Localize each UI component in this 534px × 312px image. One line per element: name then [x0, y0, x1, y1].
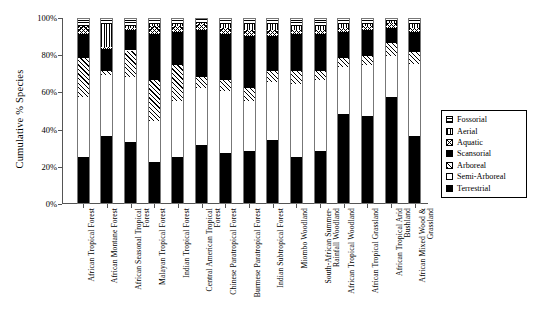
bar-segment-semi-arboreal — [244, 101, 255, 151]
legend-item-terrestrial[interactable]: Terrestrial — [446, 182, 523, 193]
legend-item-scansorial[interactable]: Scansorial — [446, 148, 523, 159]
x-tick-label: African Mixed Wood & Grassland — [419, 112, 432, 208]
x-tick-label-text: South-African Summer-Rainfall Woodland — [324, 208, 341, 304]
bar-segment-aerial — [125, 26, 136, 28]
y-axis-title-text: Cumulative % Species — [14, 44, 25, 194]
bar-segment-fossorial — [386, 18, 397, 21]
legend-label: Terrestrial — [457, 184, 491, 193]
bar-segment-terrestrial — [315, 151, 326, 203]
bar-segment-aquatic — [78, 26, 89, 33]
bar-segment-aquatic — [220, 28, 231, 34]
bar-segment-aquatic — [315, 30, 326, 34]
y-tick-label: 60% — [31, 88, 57, 96]
bar-segment-arboreal — [291, 71, 302, 84]
legend-label: Scansorial — [457, 149, 491, 158]
bar-segment-aerial — [409, 24, 420, 28]
bar-segment-arboreal — [409, 52, 420, 63]
legend-item-semi-arboreal[interactable]: Semi-Arboreal — [446, 171, 523, 182]
bar-segment-aquatic — [409, 28, 420, 32]
x-tick-label-text: African Tropical Woodland — [348, 208, 356, 304]
bar-segment-scansorial — [386, 28, 397, 43]
legend-item-aquatic[interactable]: Aquatic — [446, 137, 523, 148]
y-tick-label: 80% — [31, 51, 57, 59]
bar-segment-aerial — [291, 26, 302, 30]
x-tick-label: Indian Subtropical Forest — [277, 112, 290, 208]
legend-label: Fossorial — [457, 115, 487, 124]
y-tick-label: 100% — [31, 14, 57, 22]
x-tick-label: South-African Summer-Rainfall Woodland — [325, 112, 338, 208]
x-tick-label: Central American Tropical Forest — [206, 112, 219, 208]
bar-segment-aquatic — [149, 26, 160, 33]
bar-segment-scansorial — [338, 32, 349, 58]
bar-segment-semi-arboreal — [362, 65, 373, 115]
x-tick-label-text: Chinese Paratropical Forest — [229, 208, 237, 304]
bar-segment-semi-arboreal — [338, 67, 349, 114]
bar-segment-scansorial — [101, 49, 112, 71]
bar-segment-arboreal — [78, 58, 89, 97]
bar-segment-aerial — [101, 24, 112, 46]
bar-segment-arboreal — [125, 51, 136, 77]
bar-segment-scansorial — [196, 30, 207, 77]
bar-segment-arboreal — [244, 88, 255, 101]
x-tick-label-text: African Tropical Arid Bushland — [395, 208, 412, 304]
x-tick-label-text: African Tropical Forest — [87, 208, 95, 304]
bar-segment-aerial — [244, 24, 255, 30]
bar-segment-aerial — [149, 24, 160, 26]
bar-segment-terrestrial — [386, 97, 397, 203]
legend-swatch-icon — [446, 128, 453, 135]
legend-item-aerial[interactable]: Aerial — [446, 125, 523, 136]
bar-segment-fossorial — [196, 18, 207, 23]
bar-segment-scansorial — [149, 34, 160, 81]
y-axis-title: Cumulative % Species — [14, 0, 28, 44]
bar-segment-fossorial — [267, 18, 278, 24]
legend-item-arboreal[interactable]: Arboreal — [446, 160, 523, 171]
bar-segment-aerial — [362, 24, 373, 26]
bar-segment-aerial — [386, 21, 397, 23]
bar-segment-arboreal — [338, 58, 349, 67]
x-tick-label: Miombo Woodland — [301, 112, 314, 208]
bar-segment-arboreal — [267, 71, 278, 82]
x-tick-label: African Tropical Arid Bushland — [396, 112, 409, 208]
bar-segment-fossorial — [101, 18, 112, 24]
bar-segment-aquatic — [362, 26, 373, 30]
x-tick-label-text: Malayan Tropical Forest — [158, 208, 166, 304]
legend-swatch-icon — [446, 173, 453, 180]
bar-segment-aquatic — [196, 24, 207, 30]
x-tick-label: African Montane Forest — [111, 112, 124, 208]
bar-segment-scansorial — [78, 34, 89, 58]
x-tick-label: Chinese Paratropical Forest — [230, 112, 243, 208]
legend-swatch-icon — [446, 139, 453, 146]
bar-segment-fossorial — [149, 18, 160, 24]
legend-item-fossorial[interactable]: Fossorial — [446, 114, 523, 125]
x-tick-label: African Seasonal Tropical Forest — [135, 112, 148, 208]
x-tick-label: Burmese Paratropical Forest — [254, 112, 267, 208]
y-tick-mark — [58, 167, 62, 168]
bar-segment-scansorial — [220, 34, 231, 81]
legend-swatch-icon — [446, 116, 453, 123]
bar-segment-scansorial — [291, 34, 302, 71]
bar-segment-terrestrial — [172, 157, 183, 204]
legend-swatch-icon — [446, 185, 453, 192]
bar-segment-aquatic — [125, 28, 136, 30]
bar-segment-arboreal — [315, 71, 326, 80]
bar-segment-arboreal — [220, 80, 231, 91]
bar-segment-arboreal — [196, 77, 207, 88]
bar-segment-aerial — [172, 24, 183, 26]
bar-segment-aquatic — [386, 23, 397, 29]
y-tick-mark — [58, 92, 62, 93]
y-tick-mark — [58, 130, 62, 131]
bar-segment-aerial — [338, 24, 349, 28]
bar-segment-arboreal — [386, 43, 397, 56]
legend-label: Arboreal — [457, 161, 486, 170]
bar-segment-terrestrial — [244, 151, 255, 203]
legend-label: Semi-Arboreal — [457, 172, 506, 181]
legend-label: Aquatic — [457, 138, 483, 147]
bar-segment-aquatic — [101, 47, 112, 49]
bar-segment-fossorial — [338, 18, 349, 24]
x-tick-label-text: Miombo Woodland — [300, 208, 308, 304]
y-tick-label: 40% — [31, 126, 57, 134]
bar-segment-aerial — [196, 23, 207, 25]
x-tick-label: African Tropical Woodland — [348, 112, 361, 208]
bar-segment-scansorial — [244, 36, 255, 88]
legend-swatch-icon — [446, 162, 453, 169]
